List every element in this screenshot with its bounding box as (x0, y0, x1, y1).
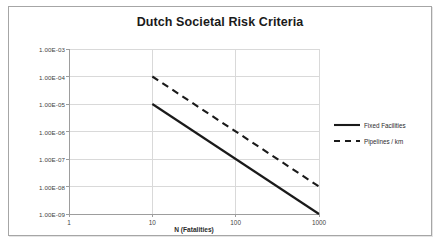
plot-area (69, 49, 319, 214)
chart-title: Dutch Societal Risk Criteria (9, 15, 431, 29)
series-lines (69, 49, 319, 214)
legend-label: Pipelines / km (364, 138, 403, 145)
legend-item[interactable]: Fixed Facilities (334, 117, 429, 133)
x-tick-label: 100 (230, 219, 241, 226)
x-tick-label: 1 (67, 219, 71, 226)
y-tick-label: 1.00E-05 (39, 101, 65, 108)
y-tick-label: 1.00E-06 (39, 128, 65, 135)
legend-label: Fixed Facilities (364, 122, 406, 129)
x-tick-label: 10 (149, 219, 156, 226)
y-tick-label: 1.00E-07 (39, 156, 65, 163)
y-tick-label: 1.00E-09 (39, 211, 65, 218)
chart-legend: Fixed FacilitiesPipelines / km (334, 117, 429, 149)
series-line-0 (152, 104, 319, 214)
legend-swatch-dashed (334, 136, 360, 146)
y-tick-label: 1.00E-08 (39, 183, 65, 190)
x-tick-label: 1000 (312, 219, 326, 226)
x-axis-title: N (Fatalities) (69, 226, 319, 233)
legend-swatch-solid (334, 120, 360, 130)
series-line-1 (152, 77, 319, 187)
chart-frame: Dutch Societal Risk Criteria Frequency (… (8, 6, 432, 236)
y-tick-label: 1.00E-03 (39, 46, 65, 53)
legend-item[interactable]: Pipelines / km (334, 133, 429, 149)
y-axis-tick-labels: 1.00E-031.00E-041.00E-051.00E-061.00E-07… (17, 49, 65, 214)
y-tick-label: 1.00E-04 (39, 73, 65, 80)
